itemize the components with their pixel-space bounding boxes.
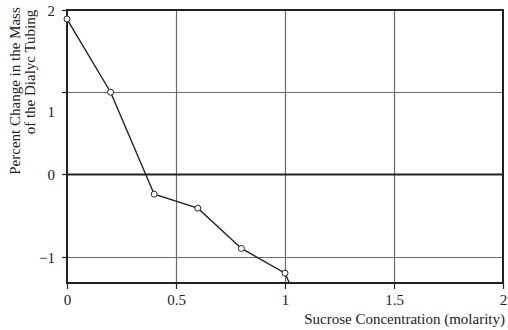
x-tick-label: 1: [282, 292, 290, 308]
y-axis-label-line-1: Percent Change in the Mass: [7, 7, 23, 175]
x-tick-label: 1.5: [385, 292, 404, 308]
y-tick-label: −1: [39, 250, 55, 266]
data-point-marker: [108, 89, 114, 95]
gridlines: [67, 10, 503, 283]
data-point-marker: [282, 270, 288, 276]
x-axis-label: Sucrose Concentration (molarity): [304, 311, 505, 328]
x-tick-label: 0: [64, 292, 72, 308]
x-tick-label: 2: [500, 292, 508, 308]
x-tick-label: 0.5: [167, 292, 186, 308]
data-point-marker: [64, 16, 70, 22]
data-point-marker: [151, 191, 157, 197]
tick-labels: 00.511.52210−1: [39, 3, 507, 309]
y-axis-label-line-2: of the Dialyc Tubing: [22, 9, 38, 134]
series-line: [67, 19, 289, 283]
line-chart: 00.511.52210−1 Sucrose Concentration (mo…: [0, 0, 508, 330]
y-tick-label: 1: [48, 104, 56, 120]
data-point-marker: [195, 205, 201, 211]
chart: 00.511.52210−1 Sucrose Concentration (mo…: [0, 0, 508, 330]
data-point-marker: [238, 245, 244, 251]
y-tick-label: 2: [48, 3, 56, 19]
y-tick-label: 0: [48, 167, 56, 183]
axes: [62, 10, 504, 289]
